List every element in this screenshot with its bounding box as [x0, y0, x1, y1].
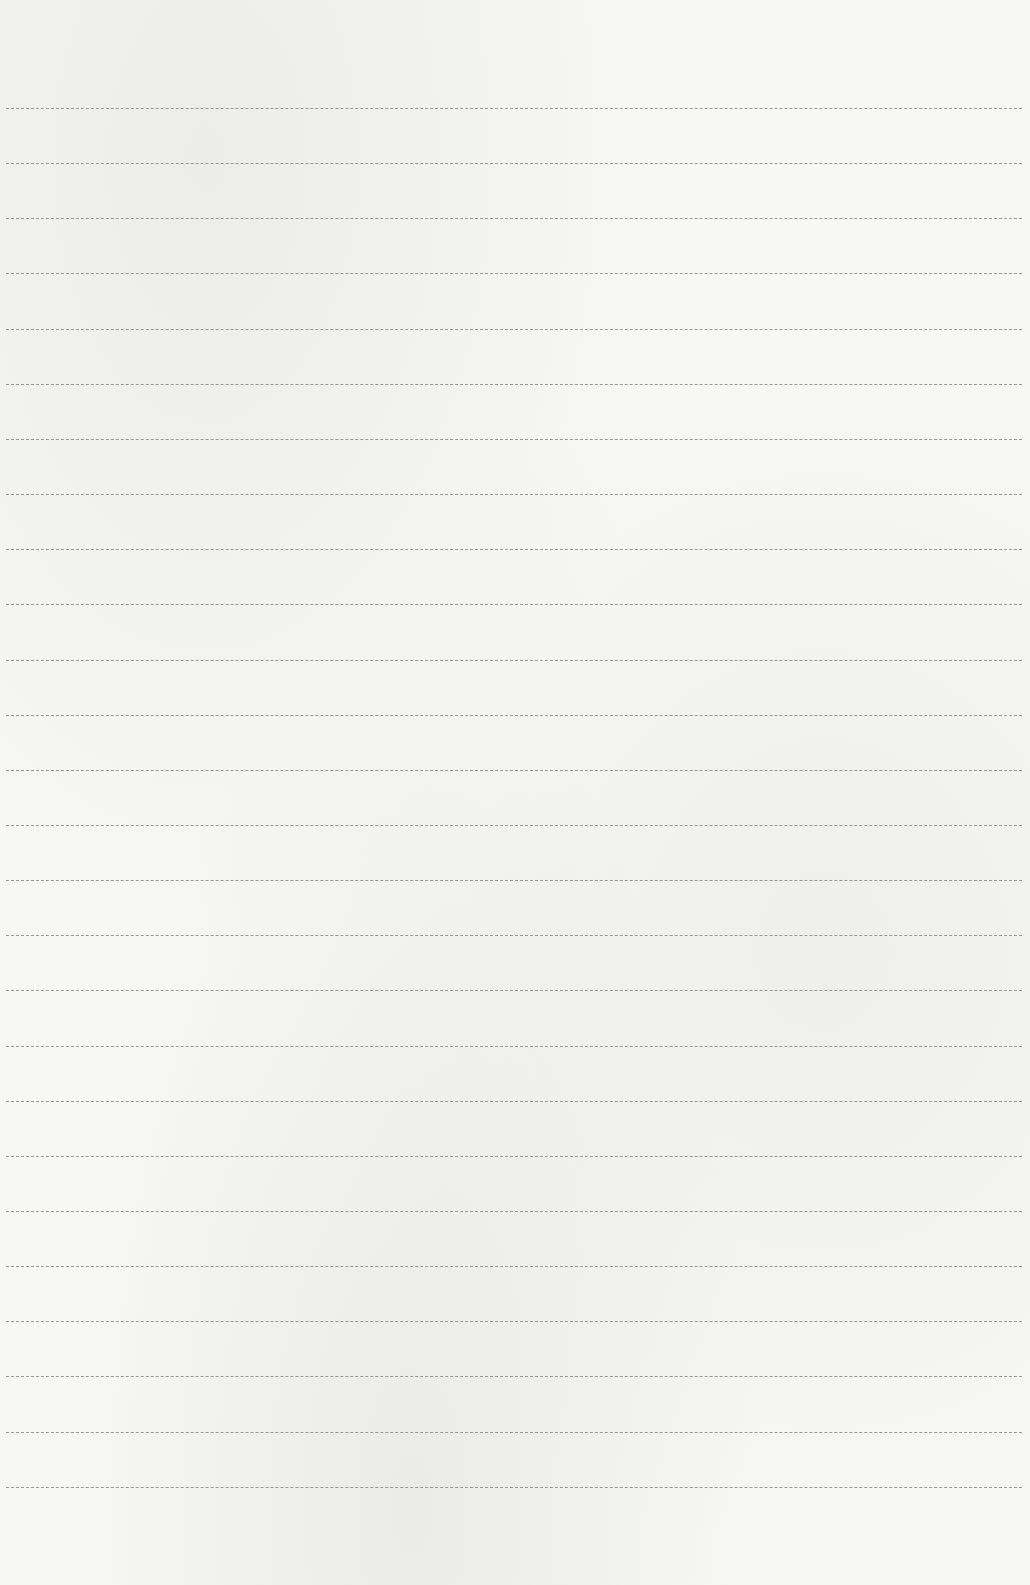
ruled-line — [6, 715, 1022, 716]
ruled-line — [6, 1046, 1022, 1047]
lined-paper — [0, 0, 1030, 1585]
ruled-line — [6, 1156, 1022, 1157]
ruled-line — [6, 384, 1022, 385]
ruled-line — [6, 1487, 1022, 1488]
ruled-line — [6, 1376, 1022, 1377]
ruled-line — [6, 604, 1022, 605]
ruled-line — [6, 439, 1022, 440]
ruled-line — [6, 1101, 1022, 1102]
ruled-line — [6, 218, 1022, 219]
ruled-line — [6, 880, 1022, 881]
ruled-line — [6, 163, 1022, 164]
ruled-line — [6, 108, 1022, 109]
ruled-line — [6, 1211, 1022, 1212]
ruled-line — [6, 825, 1022, 826]
ruled-line — [6, 329, 1022, 330]
ruled-line — [6, 935, 1022, 936]
ruled-line — [6, 1321, 1022, 1322]
ruled-line — [6, 549, 1022, 550]
ruled-line — [6, 494, 1022, 495]
ruled-line — [6, 990, 1022, 991]
ruled-line — [6, 660, 1022, 661]
ruled-line — [6, 1432, 1022, 1433]
ruled-line — [6, 770, 1022, 771]
ruled-line — [6, 273, 1022, 274]
ruled-line — [6, 1266, 1022, 1267]
